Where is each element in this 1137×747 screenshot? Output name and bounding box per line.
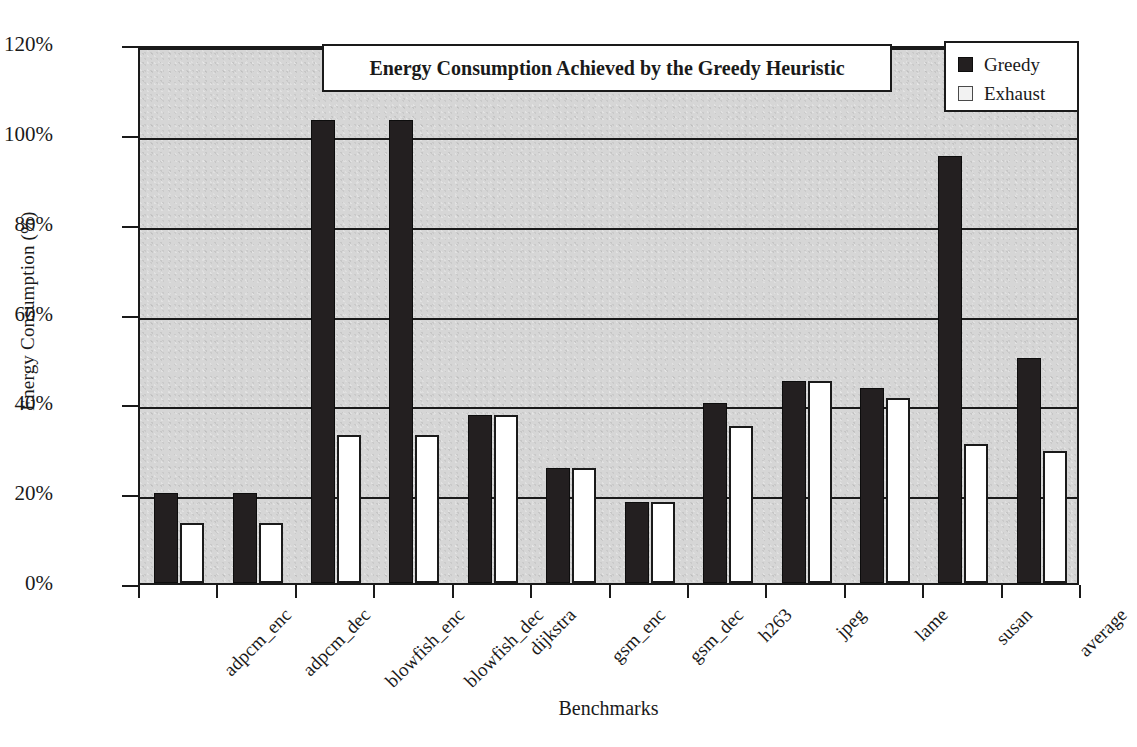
bar-adpcm_enc-exhaust (180, 523, 204, 583)
x-axis-tick-mark (1001, 585, 1003, 598)
bar-dijkstra-greedy (468, 415, 492, 583)
x-axis-category-label: jpeg (831, 604, 870, 643)
y-axis-tick-mark (122, 226, 138, 228)
x-axis-category-label: h263 (755, 604, 797, 646)
chart-title-box: Energy Consumption Achieved by the Greed… (322, 44, 892, 92)
x-axis-tick-mark (922, 585, 924, 598)
x-axis-category-label: average (1074, 604, 1131, 661)
bar-adpcm_dec-greedy (233, 493, 257, 583)
x-axis-tick-mark (1079, 585, 1081, 598)
x-axis-tick-mark (687, 585, 689, 598)
x-axis-title: Benchmarks (138, 697, 1079, 720)
bar-blowfish_enc-greedy (311, 120, 335, 583)
x-axis-category-label: adpcm_enc (220, 604, 297, 681)
bar-gsm_dec-exhaust (651, 502, 675, 583)
x-axis-category-label: susan (991, 604, 1036, 649)
bar-h263-exhaust (729, 426, 753, 583)
y-axis-tick-mark (122, 585, 138, 587)
y-axis-tick-mark (122, 136, 138, 138)
bar-adpcm_dec-exhaust (259, 523, 283, 583)
bar-blowfish_dec-exhaust (415, 435, 439, 583)
legend-swatch-exhaust-icon (958, 86, 973, 101)
energy-consumption-bar-chart: Energy Consumption (%) 120%100%80%60%40%… (0, 0, 1137, 747)
x-axis-tick-mark (373, 585, 375, 598)
x-axis-tick-mark (530, 585, 532, 598)
legend-swatch-greedy-icon (958, 57, 973, 72)
x-axis-category-label: blowfish_enc (381, 604, 469, 692)
y-axis-tick-mark (122, 405, 138, 407)
bar-gsm_enc-exhaust (572, 468, 596, 583)
bar-gsm_enc-greedy (546, 468, 570, 583)
x-axis-category-label: adpcm_dec (298, 604, 375, 681)
legend-item-exhaust: Exhaust (958, 79, 1077, 108)
x-axis-category-label: gsm_enc (606, 604, 669, 667)
x-axis-tick-mark (138, 585, 140, 598)
bar-h263-greedy (703, 403, 727, 583)
bar-adpcm_enc-greedy (154, 493, 178, 583)
bar-average-exhaust (1043, 451, 1067, 584)
bar-blowfish_dec-greedy (389, 120, 413, 583)
x-axis-tick-mark (295, 585, 297, 598)
legend-label-greedy: Greedy (984, 54, 1040, 76)
x-axis-tick-mark (452, 585, 454, 598)
x-axis-tick-mark (844, 585, 846, 598)
bar-jpeg-greedy (782, 381, 806, 583)
y-axis-tick-mark (122, 495, 138, 497)
y-axis-tick-mark (122, 46, 138, 48)
bar-gsm_dec-greedy (625, 502, 649, 583)
chart-legend: Greedy Exhaust (944, 41, 1079, 112)
x-axis-category-label: gsm_dec (685, 604, 748, 667)
x-axis-category-label: lame (911, 604, 953, 646)
plot-area (138, 46, 1079, 585)
bar-jpeg-exhaust (808, 381, 832, 583)
chart-title: Energy Consumption Achieved by the Greed… (369, 57, 844, 80)
bar-lame-exhaust (886, 398, 910, 584)
legend-item-greedy: Greedy (958, 50, 1077, 79)
bar-susan-greedy (938, 156, 962, 583)
bar-dijkstra-exhaust (494, 415, 518, 583)
bar-average-greedy (1017, 358, 1041, 583)
x-axis-tick-mark (216, 585, 218, 598)
bar-blowfish_enc-exhaust (337, 435, 361, 583)
x-axis-tick-mark (609, 585, 611, 598)
legend-label-exhaust: Exhaust (984, 83, 1045, 105)
x-axis-tick-mark (765, 585, 767, 598)
y-axis-tick-mark (122, 316, 138, 318)
bars-layer (140, 48, 1077, 583)
bar-lame-greedy (860, 388, 884, 583)
bar-susan-exhaust (964, 444, 988, 583)
